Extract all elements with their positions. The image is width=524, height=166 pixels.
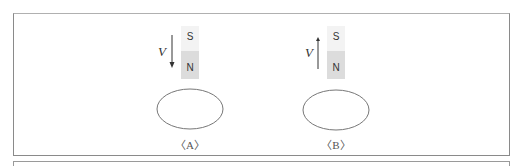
caption-a: 〈A〉 <box>170 136 210 152</box>
magnet-b-north-pole: N <box>327 51 345 79</box>
magnet-a: S N <box>181 26 199 79</box>
magnet-b: S N <box>327 26 345 79</box>
magnet-b-south-pole: S <box>327 26 345 51</box>
caption-b: 〈B〉 <box>316 136 356 152</box>
figure-drawing <box>0 0 524 166</box>
coil-b-ellipse <box>303 90 369 130</box>
coil-a-ellipse <box>157 89 223 129</box>
magnet-a-north-pole: N <box>181 51 199 79</box>
velocity-label-a: V <box>158 44 166 60</box>
magnet-a-south-pole: S <box>181 26 199 51</box>
velocity-label-b: V <box>305 45 313 61</box>
